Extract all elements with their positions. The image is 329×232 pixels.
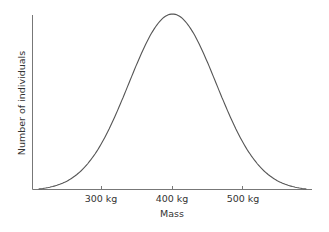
y-axis-label: Number of individuals bbox=[16, 51, 27, 155]
distribution-curve bbox=[39, 14, 307, 189]
x-tick-label-500: 500 kg bbox=[227, 193, 260, 204]
x-tick-label-300: 300 kg bbox=[85, 193, 118, 204]
x-axis-label: Mass bbox=[160, 208, 184, 219]
x-tick-label-400: 400 kg bbox=[156, 193, 189, 204]
